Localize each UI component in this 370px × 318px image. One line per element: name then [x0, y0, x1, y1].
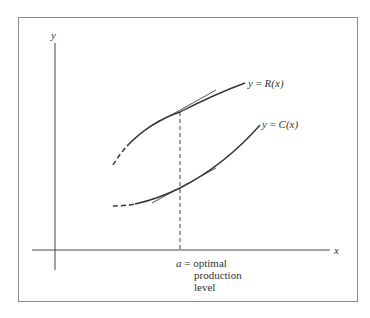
revenue-curve: [127, 83, 245, 146]
y-axis-label: y: [51, 29, 56, 41]
revenue-tangent-line: [148, 90, 216, 128]
annotation-line-2: production: [176, 269, 242, 281]
revenue-curve-dashed: [113, 146, 127, 165]
revenue-curve-label: yy = = R(x): [248, 77, 284, 89]
optimal-production-annotation: a = optimal production level: [176, 257, 242, 293]
cost-curve-label: yy = = C(x): [262, 118, 298, 130]
cost-tangent-line: [152, 168, 216, 203]
annotation-line-3: level: [176, 281, 242, 293]
cost-curve: [135, 125, 260, 204]
cost-curve-dashed: [113, 204, 135, 206]
x-axis-label: x: [334, 244, 339, 256]
